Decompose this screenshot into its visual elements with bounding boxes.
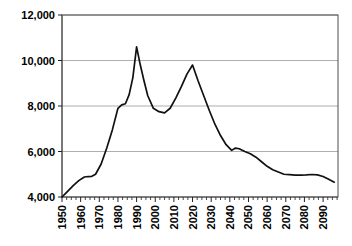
y-axis-ticks <box>58 15 62 197</box>
x-axis-label-group: 2020 <box>187 205 199 229</box>
x-axis-label-group: 2030 <box>205 205 217 229</box>
x-axis-label-group: 1980 <box>112 205 124 229</box>
x-axis-label: 2080 <box>298 205 310 229</box>
x-axis-label-group: 2070 <box>280 205 292 229</box>
x-axis-label: 2070 <box>280 205 292 229</box>
x-axis-label: 2050 <box>242 205 254 229</box>
y-axis-label: 10,000 <box>21 55 55 67</box>
x-axis-label: 1980 <box>112 205 124 229</box>
gridlines <box>62 15 338 152</box>
x-axis-label: 2030 <box>205 205 217 229</box>
data-series-line <box>62 47 334 197</box>
x-axis-label-group: 1950 <box>56 205 68 229</box>
x-axis-label-group: 1960 <box>75 205 87 229</box>
x-axis-label-group: 2040 <box>224 205 236 229</box>
y-axis-label: 12,000 <box>21 9 55 21</box>
x-axis-label-group: 2000 <box>149 205 161 229</box>
x-axis-label: 2060 <box>261 205 273 229</box>
x-axis-label: 2000 <box>149 205 161 229</box>
x-axis-labels: 1950196019701980199020002010202020302040… <box>56 205 329 229</box>
chart-container: 4,0006,0008,00010,00012,000 195019601970… <box>0 0 352 246</box>
x-axis-label: 1990 <box>131 205 143 229</box>
x-axis-label-group: 1990 <box>131 205 143 229</box>
x-axis-label: 2040 <box>224 205 236 229</box>
y-axis-label: 6,000 <box>27 146 55 158</box>
x-axis-label: 1970 <box>93 205 105 229</box>
x-axis-label-group: 1970 <box>93 205 105 229</box>
x-axis-label: 2020 <box>187 205 199 229</box>
line-chart: 4,0006,0008,00010,00012,000 195019601970… <box>0 0 352 246</box>
x-axis-label-group: 2090 <box>317 205 329 229</box>
x-axis-label-group: 2060 <box>261 205 273 229</box>
y-axis-labels: 4,0006,0008,00010,00012,000 <box>21 9 55 203</box>
x-axis-label: 1950 <box>56 205 68 229</box>
x-axis-ticks <box>62 197 337 202</box>
x-axis-label: 2010 <box>168 205 180 229</box>
x-axis-label-group: 2080 <box>298 205 310 229</box>
x-axis-label: 2090 <box>317 205 329 229</box>
y-axis-label: 8,000 <box>27 100 55 112</box>
x-axis-label-group: 2010 <box>168 205 180 229</box>
x-axis-label-group: 2050 <box>242 205 254 229</box>
x-axis-label: 1960 <box>75 205 87 229</box>
y-axis-label: 4,000 <box>27 191 55 203</box>
